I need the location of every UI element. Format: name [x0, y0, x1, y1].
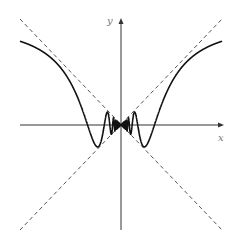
x-axis-label: x	[218, 132, 224, 143]
y-axis-arrow-icon	[119, 18, 124, 24]
x-axis-arrow-icon	[218, 123, 224, 128]
y-axis-label: y	[106, 15, 113, 26]
function-plot: x y	[0, 0, 239, 238]
